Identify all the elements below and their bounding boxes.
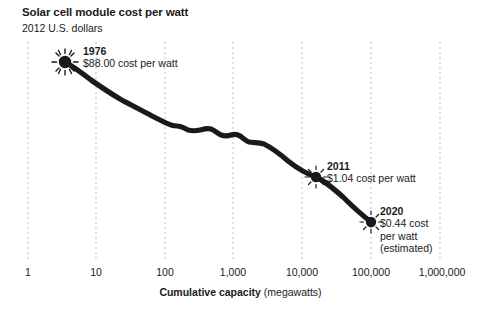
annotation-1976-year: 1976	[83, 45, 178, 57]
annotation-2011: 2011 $1.04 cost per watt	[327, 160, 416, 185]
solar-cost-chart: Solar cell module cost per watt 2012 U.S…	[0, 0, 481, 309]
annotation-2011-year: 2011	[327, 160, 416, 172]
annotation-2011-value: $1.04 cost per watt	[327, 172, 416, 185]
x-axis-caption-units: (megawatts)	[264, 286, 322, 298]
x-axis-caption-bold: Cumulative capacity	[159, 286, 261, 298]
chart-plot-area	[0, 0, 481, 309]
x-tick-label-1000: 1,000	[220, 266, 246, 278]
annotation-1976-value: $88.00 cost per watt	[83, 57, 178, 70]
annotation-2020-value-line3: (estimated)	[380, 242, 433, 255]
x-tick-label-10: 10	[90, 266, 102, 278]
annotation-2020-year: 2020	[380, 205, 433, 217]
marker-2020	[360, 211, 382, 233]
x-tick-label-1000000: 1,000,000	[419, 266, 466, 278]
annotation-1976: 1976 $88.00 cost per watt	[83, 45, 178, 70]
x-axis-caption: Cumulative capacity (megawatts)	[0, 286, 481, 298]
x-tick-label-100: 100	[156, 266, 174, 278]
marker-2011	[305, 166, 327, 188]
annotation-2020-value-line2: per watt	[380, 230, 433, 243]
cost-curve-line	[65, 62, 371, 222]
x-tick-label-100000: 100,000	[352, 266, 390, 278]
x-tick-label-10000: 10,000	[286, 266, 318, 278]
x-tick-label-1: 1	[25, 266, 31, 278]
marker-1976	[52, 49, 78, 75]
annotation-2020: 2020 $0.44 cost per watt (estimated)	[380, 205, 433, 255]
annotation-2020-value-line1: $0.44 cost	[380, 217, 433, 230]
